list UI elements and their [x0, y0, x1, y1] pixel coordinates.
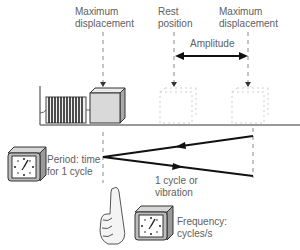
cycle-lines	[103, 136, 253, 176]
period-clock-icon	[8, 147, 46, 181]
label-frequency-line2: cycles/s	[177, 228, 213, 239]
label-frequency-line1: Frequency:	[177, 216, 227, 227]
ghost-blocks	[160, 88, 268, 123]
spring-icon	[40, 97, 90, 123]
ghost-block-rest	[160, 92, 192, 123]
label-cycle-line2: vibration	[155, 187, 193, 198]
guide-arrowheads	[100, 82, 251, 87]
mass-block	[90, 88, 125, 123]
label-max-displacement-left-line2: displacement	[75, 18, 134, 29]
label-max-displacement-right-line2: displacement	[219, 18, 278, 29]
label-period-line2: for 1 cycle	[47, 166, 93, 177]
label-max-displacement-right-line1: Maximum	[219, 6, 262, 17]
amplitude-arrow	[175, 52, 248, 60]
label-rest-line1: Rest	[158, 6, 179, 17]
label-max-displacement-left-line1: Maximum	[75, 6, 118, 17]
raised-finger-hand-icon	[100, 188, 125, 245]
label-period-line1: Period: time	[47, 154, 100, 165]
frequency-clock-icon	[135, 206, 173, 240]
label-rest-line2: position	[158, 18, 192, 29]
oscillation-diagram	[0, 0, 300, 250]
label-cycle-line1: 1 cycle or	[155, 175, 198, 186]
arrow-left	[175, 142, 186, 149]
label-amplitude: Amplitude	[190, 38, 234, 49]
arrow-right	[172, 163, 183, 170]
ghost-block-max	[232, 92, 264, 123]
